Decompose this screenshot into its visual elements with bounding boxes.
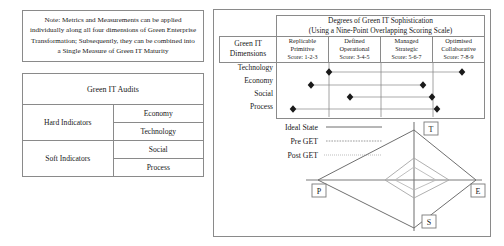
green-it-audits-table: Green IT Audits Hard Indicators Economy … — [22, 73, 204, 177]
matrix-title-cell: Degrees of Green IT Sophistication (Usin… — [277, 16, 485, 37]
matrix-title-row: Degrees of Green IT Sophistication (Usin… — [220, 16, 485, 37]
marker-process-post — [434, 105, 441, 113]
sophistication-table: Degrees of Green IT Sophistication (Usin… — [219, 15, 485, 119]
radar-diagram: Ideal State Pre GET Post GET T — [214, 118, 492, 237]
marker-process-pre — [290, 105, 297, 113]
col1-name2: Primitive — [277, 45, 328, 53]
indicator-cell-technology: Technology — [113, 123, 204, 141]
figure-root: Note: Metrics and Measurements can be ap… — [0, 0, 504, 246]
right-panel: Degrees of Green IT Sophistication (Usin… — [213, 9, 491, 237]
table-row: Soft Indicators Social — [23, 141, 204, 159]
marker-social-post — [429, 93, 436, 101]
matrix-row-labels: Technology Economy Social Process — [220, 62, 277, 118]
col2-name2: Operational — [329, 45, 380, 53]
axis-letter-right: E — [476, 187, 481, 196]
row-label-technology: Technology — [220, 63, 277, 76]
legend-label-ideal-state: Ideal State — [285, 123, 319, 132]
radar-axis-label-P: P — [312, 184, 326, 197]
col4-score: Score: 7-8-9 — [433, 54, 484, 62]
marker-economy-post — [420, 81, 427, 89]
radar-svg: Ideal State Pre GET Post GET T — [214, 118, 492, 237]
radar-axis-label-S: S — [422, 215, 436, 228]
matrix-corner-blank — [220, 16, 277, 37]
radar-axis-label-E: E — [471, 184, 485, 197]
col3-score: Score: 5-6-7 — [381, 54, 432, 62]
legend-label-pre-get: Pre GET — [291, 137, 319, 146]
col3-name1: Managed — [381, 37, 432, 45]
col3-name2: Strategic — [381, 45, 432, 53]
sophistication-matrix: Degrees of Green IT Sophistication (Usin… — [219, 15, 484, 119]
col4-name1: Optimised — [433, 37, 484, 45]
indicator-cell-social: Social — [113, 141, 204, 159]
matrix-column-header-1: Replicable Primitive Score: 1-2-3 — [277, 36, 329, 62]
marker-technology-post — [459, 68, 466, 76]
matrix-dimensions-header: Green IT Dimensions — [220, 36, 277, 62]
axis-letter-bottom: S — [427, 218, 431, 227]
left-column: Note: Metrics and Measurements can be ap… — [22, 10, 204, 177]
matrix-column-header-4: Optimised Collaborative Score: 7-8-9 — [433, 36, 485, 62]
matrix-header-row: Green IT Dimensions Replicable Primitive… — [220, 36, 485, 62]
radar-axis-label-T: T — [424, 122, 438, 135]
matrix-plot-row: Technology Economy Social Process — [220, 62, 485, 118]
radar-polygon-post-get — [385, 158, 449, 198]
radar-polygon-pre-get — [395, 167, 436, 190]
axis-letter-left: P — [317, 187, 322, 196]
col4-name2: Collaborative — [433, 45, 484, 53]
matrix-column-header-3: Managed Strategic Score: 5-6-7 — [381, 36, 433, 62]
axis-letter-top: T — [429, 125, 434, 134]
dimensions-header-line1: Green IT — [220, 39, 276, 49]
matrix-column-header-2: Defined Operational Score: 3-4-5 — [329, 36, 381, 62]
marker-social-pre — [347, 93, 354, 101]
matrix-title-line2: (Using a Nine-Point Overlapping Scoring … — [277, 26, 484, 36]
marker-economy-pre — [308, 81, 315, 89]
dimensions-header-line2: Dimensions — [220, 49, 276, 59]
matrix-scatter-plot — [277, 62, 485, 118]
indicator-cell-economy: Economy — [113, 105, 204, 123]
hard-indicators-cell: Hard Indicators — [23, 105, 114, 141]
col1-name1: Replicable — [277, 37, 328, 45]
table-row: Hard Indicators Economy — [23, 105, 204, 123]
col2-score: Score: 3-4-5 — [329, 54, 380, 62]
matrix-title-line1: Degrees of Green IT Sophistication — [277, 16, 484, 26]
scatter-svg — [277, 63, 485, 117]
legend-label-post-get: Post GET — [287, 151, 318, 160]
col2-name1: Defined — [329, 37, 380, 45]
indicator-cell-process: Process — [113, 159, 204, 177]
audits-title-cell: Green IT Audits — [23, 74, 204, 105]
marker-technology-pre — [326, 68, 333, 76]
soft-indicators-cell: Soft Indicators — [23, 141, 114, 177]
note-box: Note: Metrics and Measurements can be ap… — [22, 10, 204, 62]
row-label-social: Social — [220, 89, 277, 102]
row-label-economy: Economy — [220, 76, 277, 89]
col1-score: Score: 1-2-3 — [277, 54, 328, 62]
table-row: Green IT Audits — [23, 74, 204, 105]
row-label-process: Process — [220, 102, 277, 115]
